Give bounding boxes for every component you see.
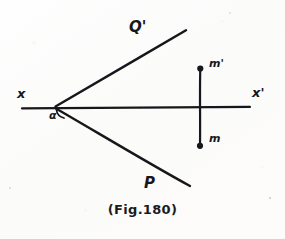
lower-ray-line <box>56 108 191 186</box>
point-dot-m <box>197 143 203 149</box>
label-lower-ray: P <box>144 176 155 191</box>
label-point-m-prime: m' <box>209 58 224 69</box>
scan-speck <box>9 187 11 189</box>
scan-speck <box>269 197 271 199</box>
scan-speck <box>229 12 231 14</box>
upper-ray-line <box>56 30 187 106</box>
label-angle-alpha: α <box>49 110 57 121</box>
label-point-m: m <box>209 133 220 144</box>
label-axis-right: x' <box>252 86 264 99</box>
label-axis-left: x <box>17 87 25 100</box>
figure-caption: (Fig.180) <box>0 202 285 217</box>
figure-canvas: Q' P x x' m' m α (Fig.180) <box>0 0 285 239</box>
label-upper-ray: Q' <box>129 20 146 35</box>
point-dot-m-prime <box>197 65 203 71</box>
